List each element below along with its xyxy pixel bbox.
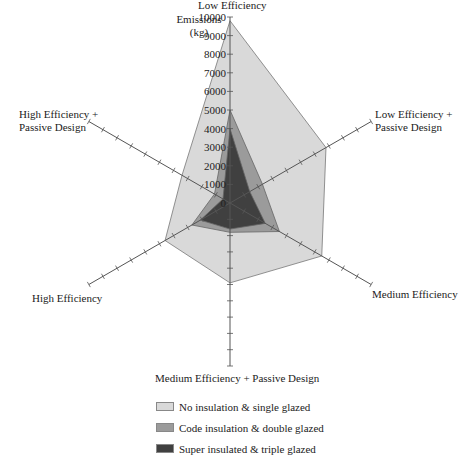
axis-label-line: High Efficiency + [19,108,98,121]
radial-tick-label: 1000 [204,178,227,190]
axis-tick [370,119,373,124]
legend: No insulation & single glazed Code insul… [156,396,324,459]
radial-tick-label: 8000 [204,48,227,60]
legend-item-no-insulation: No insulation & single glazed [156,396,324,417]
axis-tick [356,127,359,132]
ylabel: Emissions (kg) [172,13,226,39]
axis-label-line: Low Efficiency + [375,108,452,121]
legend-swatch [156,423,174,432]
axis-tick [144,249,147,254]
radial-tick-label: 6000 [204,85,227,97]
axis-label-medium-efficiency-passive: Medium Efficiency + Passive Design [155,372,319,385]
ylabel-line-1: Emissions [172,13,226,26]
axis-label-medium-efficiency: Medium Efficiency [372,288,458,301]
legend-swatch [156,444,174,453]
radial-tick-label: 0 [221,197,227,209]
radial-tick-label: 2000 [204,160,227,172]
ylabel-line-2: (kg) [172,26,226,39]
legend-label: Super insulated & triple glazed [179,443,316,455]
radial-tick-label: 4000 [204,123,227,135]
axis-label-low-efficiency-passive: Low Efficiency + Passive Design [375,108,452,134]
radial-tick-label: 5000 [204,104,227,116]
axis-tick [158,241,161,246]
axis-tick [116,266,119,271]
axis-tick [144,152,147,157]
axis-tick [101,127,104,132]
axis-tick [327,257,330,262]
series-polygons [165,21,326,283]
radial-tick-label: 7000 [204,67,227,79]
axis-tick [130,257,133,262]
axis-tick [356,274,359,279]
axis-label-high-efficiency: High Efficiency [32,292,102,305]
axis-tick [101,274,104,279]
legend-swatch [156,402,174,411]
axis-label-high-efficiency-passive: High Efficiency + Passive Design [19,108,98,134]
axis-tick [158,160,161,165]
legend-item-code-insulation: Code insulation & double glazed [156,417,324,438]
legend-item-super-insulated: Super insulated & triple glazed [156,438,324,459]
axis-tick [341,266,344,271]
axis-tick [327,143,330,148]
axis-tick [172,168,175,173]
axis-tick [130,143,133,148]
axis-label-low-efficiency: Low Efficiency [198,0,267,12]
legend-label: Code insulation & double glazed [179,422,324,434]
legend-label: No insulation & single glazed [179,401,310,413]
axis-tick [87,282,90,287]
axis-tick [341,135,344,140]
axis-tick [370,282,373,287]
axis-label-line: Passive Design [375,121,452,134]
radar-axes [87,17,372,366]
axis-label-line: Passive Design [19,121,98,134]
axis-tick [116,135,119,140]
radial-tick-label: 3000 [204,141,227,153]
